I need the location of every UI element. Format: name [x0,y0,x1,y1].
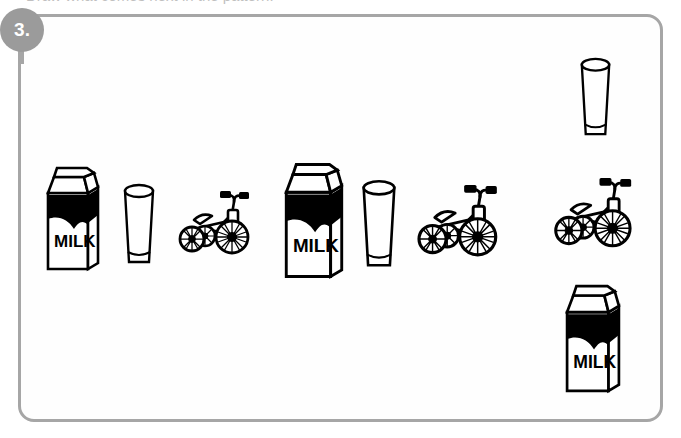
tricycle-icon [547,169,641,257]
drinking-glass-icon [117,182,161,270]
drinking-glass-icon [355,178,403,274]
tricycle-icon [172,184,258,262]
badge-stem [19,50,24,64]
drinking-glass-icon [574,55,617,143]
milk-carton-icon: MILK [44,163,102,273]
tricycle-icon [410,176,507,266]
milk-label: MILK [54,232,96,251]
worksheet-page: Draw what comes next in the pattern. 3. … [0,0,681,438]
milk-carton-icon: MILK [560,281,626,395]
milk-label: MILK [293,235,339,256]
milk-label: MILK [573,352,616,372]
cut-off-instruction-text: Draw what comes next in the pattern. [26,0,646,4]
question-number-badge: 3. [0,8,44,52]
milk-carton-icon: MILK [281,159,347,281]
